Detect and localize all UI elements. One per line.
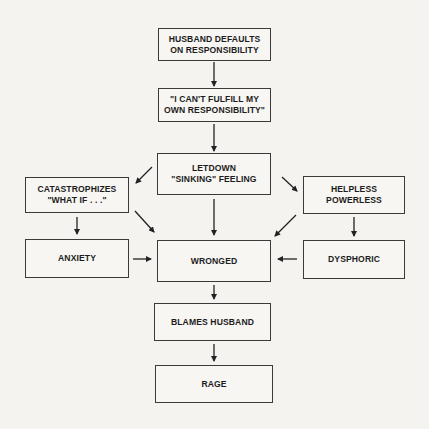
node-label-line: "SINKING" FEELING	[171, 174, 256, 184]
node-label: HUSBAND DEFAULTS ON RESPONSIBILITY	[169, 34, 261, 56]
arrow-catastrophizes-to-wronged	[135, 211, 154, 232]
node-label-line: "WHAT IF . . ."	[47, 195, 106, 205]
node-label-line: "I CAN'T FULFILL MY	[170, 94, 259, 104]
node-anxiety: ANXIETY	[25, 239, 129, 278]
node-blames-husband: BLAMES HUSBAND	[154, 303, 271, 341]
node-label-line: HELPLESS	[331, 184, 377, 194]
node-letdown: LETDOWN "SINKING" FEELING	[157, 153, 271, 195]
node-catastrophizes: CATASTROPHIZES "WHAT IF . . ."	[25, 177, 129, 213]
node-helpless: HELPLESS POWERLESS	[303, 176, 405, 214]
node-dysphoric: DYSPHORIC	[303, 240, 405, 279]
node-rage: RAGE	[155, 365, 273, 403]
node-label-line: CATASTROPHIZES	[38, 184, 117, 194]
node-label: RAGE	[201, 379, 226, 390]
node-wronged: WRONGED	[157, 240, 271, 282]
node-label: LETDOWN "SINKING" FEELING	[171, 163, 256, 185]
node-label-line: HUSBAND DEFAULTS	[169, 34, 261, 44]
node-label: CATASTROPHIZES "WHAT IF . . ."	[38, 184, 117, 206]
node-label: WRONGED	[191, 256, 238, 267]
node-label-line: ON RESPONSIBILITY	[170, 45, 259, 55]
node-cant-fulfill: "I CAN'T FULFILL MY OWN RESPONSIBILITY"	[158, 88, 271, 122]
node-label: DYSPHORIC	[328, 254, 380, 265]
node-label: ANXIETY	[58, 253, 96, 264]
arrow-helpless-to-wronged	[275, 215, 296, 236]
node-label: BLAMES HUSBAND	[171, 317, 254, 328]
node-husband-defaults: HUSBAND DEFAULTS ON RESPONSIBILITY	[158, 28, 271, 61]
node-label-line: POWERLESS	[326, 195, 382, 205]
node-label: HELPLESS POWERLESS	[326, 184, 382, 206]
node-label-line: OWN RESPONSIBILITY"	[164, 105, 265, 115]
node-label: "I CAN'T FULFILL MY OWN RESPONSIBILITY"	[164, 94, 265, 116]
node-label-line: LETDOWN	[192, 163, 236, 173]
arrow-letdown-to-helpless	[282, 177, 297, 191]
arrow-letdown-to-catastrophizes	[136, 167, 152, 183]
